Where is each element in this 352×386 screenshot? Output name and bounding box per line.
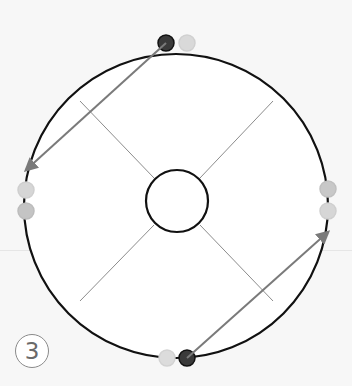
marker-right-2 [320,203,336,219]
marker-bottom-light [159,350,175,366]
inner-circle [146,170,208,232]
diagram-svg [0,0,352,386]
step-number-badge: 3 [15,334,49,368]
marker-left-2 [18,203,34,219]
diagram-canvas: 3 [0,0,352,386]
marker-left-1 [18,182,34,198]
marker-right-1 [320,181,336,197]
marker-top-light [179,35,195,51]
